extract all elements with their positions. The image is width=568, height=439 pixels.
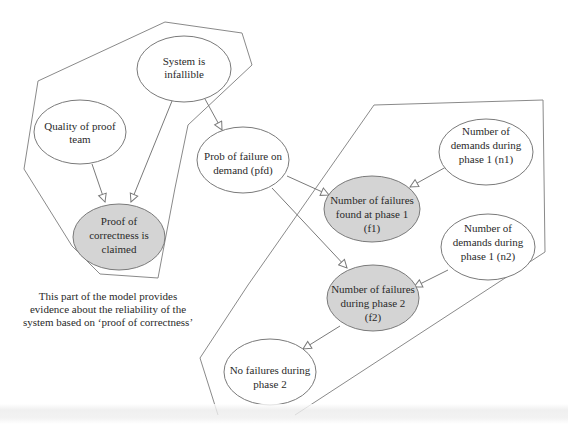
node-failures-found-phase-1[interactable]: Number of failures found at phase 1 (f1) <box>324 176 420 242</box>
svg-text:phase 1 (n1): phase 1 (n1) <box>459 153 514 166</box>
node-system-infallible[interactable]: System is infallible <box>137 36 231 102</box>
svg-text:demand (pfd): demand (pfd) <box>213 164 273 177</box>
node-prob-of-failure-on-demand[interactable]: Prob of failure on demand (pfd) <box>197 127 289 193</box>
scan-artifact-band <box>0 404 568 424</box>
svg-text:demands during: demands during <box>451 139 522 151</box>
svg-text:Prob of failure on: Prob of failure on <box>204 150 282 162</box>
svg-text:Proof of: Proof of <box>101 215 138 227</box>
svg-text:found at phase 1: found at phase 1 <box>336 208 408 220</box>
node-label: System is <box>163 55 205 67</box>
edge-n1-to-f1 <box>410 167 446 187</box>
svg-text:claimed: claimed <box>102 243 137 255</box>
svg-text:(f1): (f1) <box>364 222 381 235</box>
edge-quality-to-proof <box>92 164 105 202</box>
svg-text:during phase 2: during phase 2 <box>341 297 406 309</box>
svg-text:No failures during: No failures during <box>230 364 311 376</box>
node-quality-of-proof-team[interactable]: Quality of proof team <box>34 100 126 164</box>
node-failures-during-phase-2[interactable]: Number of failures during phase 2 (f2) <box>327 265 419 331</box>
node-proof-of-correctness-claimed[interactable]: Proof of correctness is claimed <box>73 204 165 270</box>
node-no-failures-during-phase-2[interactable]: No failures during phase 2 <box>224 339 316 405</box>
svg-text:Number of: Number of <box>464 222 512 234</box>
proof-region-caption: This part of the model provides evidence… <box>18 290 198 329</box>
edge-n2-to-f2 <box>414 270 448 287</box>
node-demands-phase-1-n2[interactable]: Number of demands during phase 1 (n2) <box>441 214 535 280</box>
svg-text:Number of: Number of <box>462 125 510 137</box>
edge-f2-to-nofail <box>303 326 340 349</box>
edge-infallible-to-pfd <box>205 99 222 130</box>
bayesian-network-diagram: System is infallible Quality of proof te… <box>0 0 568 439</box>
svg-text:Quality of proof: Quality of proof <box>44 120 116 132</box>
svg-text:team: team <box>69 133 91 145</box>
svg-text:(f2): (f2) <box>365 311 382 324</box>
edge-infallible-to-proof <box>131 101 172 202</box>
node-demands-phase-1-n1[interactable]: Number of demands during phase 1 (n1) <box>439 119 533 185</box>
svg-text:infallible: infallible <box>164 68 204 80</box>
svg-text:demands during: demands during <box>453 236 524 248</box>
svg-text:Number of failures: Number of failures <box>330 194 414 206</box>
svg-text:correctness is: correctness is <box>89 229 149 241</box>
svg-text:phase 1 (n2): phase 1 (n2) <box>461 250 516 263</box>
svg-text:Number of failures: Number of failures <box>331 283 415 295</box>
svg-text:phase 2: phase 2 <box>253 378 286 390</box>
